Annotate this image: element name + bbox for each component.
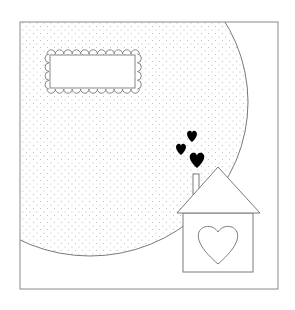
label-text-area bbox=[50, 55, 135, 88]
card-canvas bbox=[0, 0, 295, 310]
scalloped-label bbox=[45, 50, 141, 93]
